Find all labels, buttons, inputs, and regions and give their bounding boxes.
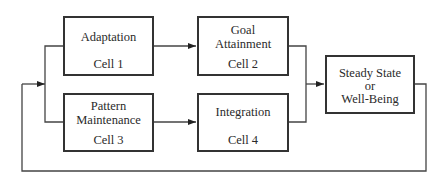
node-goal-attainment: Goal Attainment Cell 2: [197, 16, 289, 76]
node-title: Adaptation: [65, 30, 152, 44]
node-cell-label: Cell 1: [65, 57, 152, 71]
node-title: Integration: [199, 105, 287, 119]
node-title-line1: Goal: [199, 23, 287, 37]
node-line2: or: [327, 79, 413, 93]
node-title-line1: Pattern: [65, 99, 152, 113]
node-line1: Steady State: [327, 66, 413, 80]
node-cell-label: Cell 4: [199, 133, 287, 147]
node-title-line2: Attainment: [199, 37, 287, 51]
node-cell-label: Cell 3: [65, 133, 152, 147]
node-adaptation: Adaptation Cell 1: [63, 16, 154, 76]
node-pattern-maintenance: Pattern Maintenance Cell 3: [63, 93, 154, 152]
node-title-line2: Maintenance: [65, 113, 152, 127]
node-integration: Integration Cell 4: [197, 93, 289, 152]
bracket-left: [45, 46, 63, 122]
node-cell-label: Cell 2: [199, 57, 287, 71]
bracket-right: [288, 46, 306, 122]
node-line3: Well-Being: [327, 92, 413, 106]
node-steady-state: Steady State or Well-Being: [325, 55, 415, 114]
